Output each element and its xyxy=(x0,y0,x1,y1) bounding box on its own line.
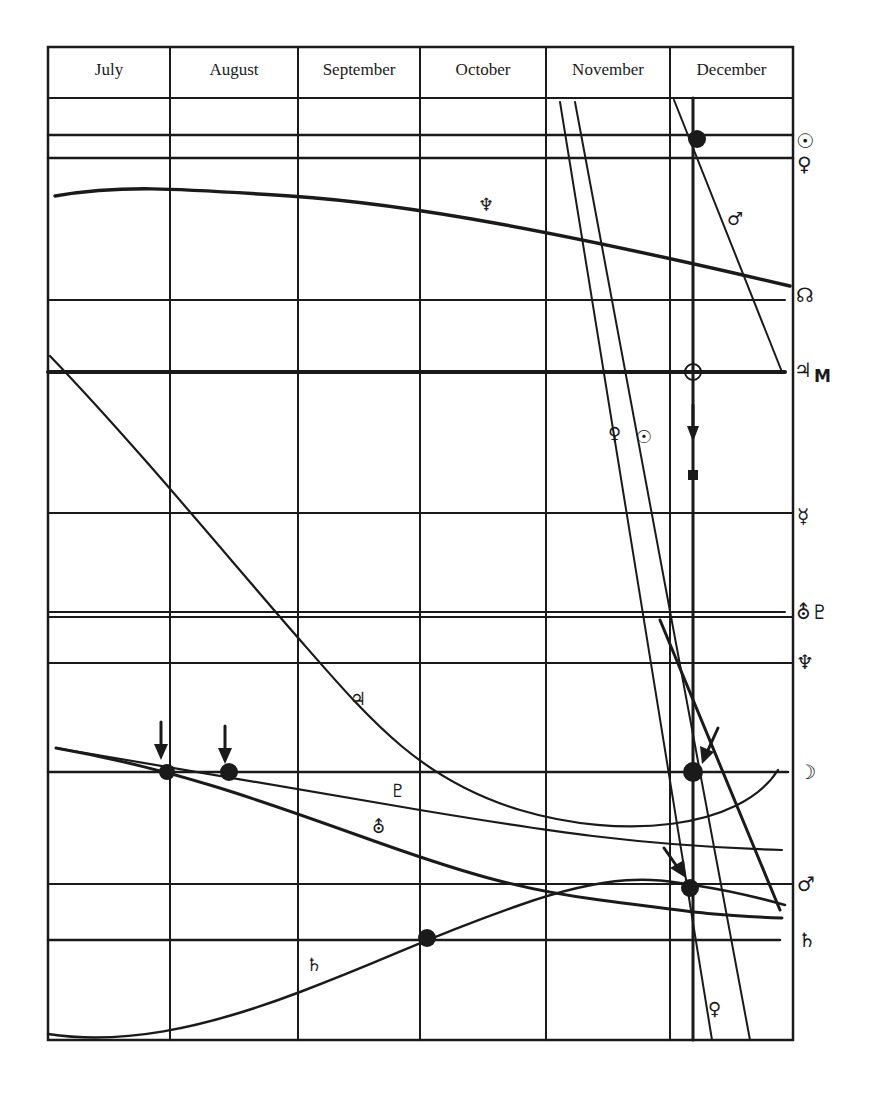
midheaven-label: M xyxy=(814,368,831,385)
sun-icon: ☉ xyxy=(796,131,814,151)
neptune-icon: ♆ xyxy=(796,652,814,672)
venus-transit-line xyxy=(560,102,712,1040)
month-december: December xyxy=(670,60,793,86)
conjunction-markers xyxy=(159,130,706,947)
uranus-pluto-icon: ⛢♇ xyxy=(796,602,829,622)
month-november: November xyxy=(546,60,670,86)
moon-icon: ☽ xyxy=(798,762,816,782)
pluto-curve-label: ♇ xyxy=(390,782,406,800)
venus-lower-label: ♀ xyxy=(708,1000,721,1018)
neptune-curve-label: ♆ xyxy=(478,196,494,214)
north-node-icon: ☊ xyxy=(796,285,814,305)
venus-icon: ♀ xyxy=(797,154,812,174)
saturn-curve xyxy=(48,880,785,1038)
neptune-curve xyxy=(55,189,790,286)
month-july: July xyxy=(48,60,170,86)
saturn-curve-label: ♄ xyxy=(306,956,322,974)
jupiter-icon: ♃ xyxy=(794,360,812,380)
month-august: August xyxy=(170,60,298,86)
sun-curve-label: ☉ xyxy=(636,428,652,446)
saturn-icon: ♄ xyxy=(798,930,816,950)
uranus-curve-label: ⛢ xyxy=(372,818,385,836)
arrows xyxy=(154,405,718,878)
month-dividers xyxy=(170,47,670,1040)
venus-curve-label: ♀ xyxy=(608,425,621,443)
jupiter-curve-label: ♃ xyxy=(350,690,366,708)
month-october: October xyxy=(420,60,546,86)
month-september: September xyxy=(298,60,420,86)
mars-icon: ♂ xyxy=(797,874,815,894)
mercury-icon: ☿ xyxy=(797,506,809,526)
transit-diagram xyxy=(0,0,879,1097)
mars-curve-label: ♂ xyxy=(727,210,743,228)
